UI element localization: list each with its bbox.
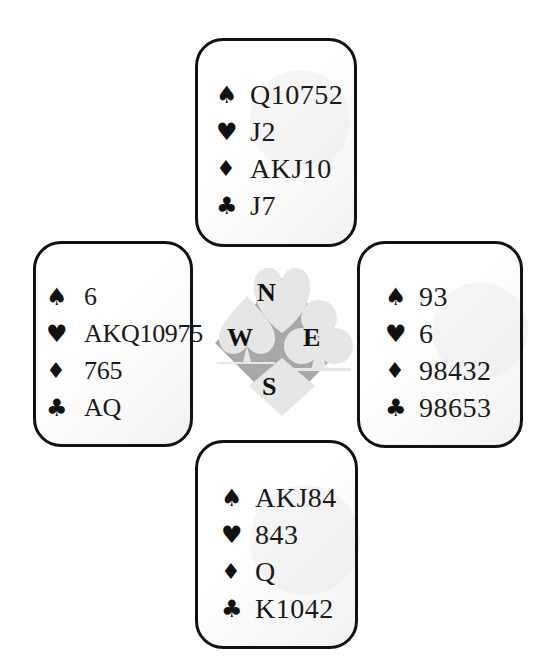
hand-south: ♠ AKJ84 ♥ 843 ♦ Q ♣ K1042 bbox=[195, 440, 358, 649]
compass-east: E bbox=[303, 323, 320, 353]
suit-row-hearts: ♥ 843 bbox=[221, 516, 337, 553]
compass-west: W bbox=[227, 323, 253, 353]
club-icon: ♣ bbox=[46, 396, 84, 420]
suit-row-clubs: ♣ 98653 bbox=[385, 389, 492, 426]
north-clubs: J7 bbox=[250, 192, 276, 220]
suit-row-clubs: ♣ K1042 bbox=[221, 590, 337, 627]
diamond-icon: ♦ bbox=[385, 360, 419, 382]
north-diamonds: AKJ10 bbox=[250, 155, 332, 183]
south-spades: AKJ84 bbox=[255, 484, 337, 512]
diamond-icon: ♦ bbox=[216, 158, 250, 180]
club-icon: ♣ bbox=[216, 194, 250, 218]
suit-row-diamonds: ♦ 98432 bbox=[385, 352, 492, 389]
west-diamonds: 765 bbox=[84, 358, 122, 384]
spade-icon: ♠ bbox=[385, 285, 419, 309]
heart-icon: ♥ bbox=[385, 322, 419, 346]
east-clubs: 98653 bbox=[419, 394, 492, 422]
suit-row-diamonds: ♦ AKJ10 bbox=[216, 150, 343, 187]
heart-icon: ♥ bbox=[221, 523, 255, 547]
suit-row-spades: ♠ AKJ84 bbox=[221, 479, 337, 516]
suit-row-diamonds: ♦ 765 bbox=[46, 352, 203, 389]
club-icon: ♣ bbox=[385, 396, 419, 420]
compass-rose: N W E S bbox=[207, 258, 357, 416]
compass-south: S bbox=[262, 372, 276, 402]
south-hearts: 843 bbox=[255, 521, 299, 549]
hand-west: ♠ 6 ♥ AKQ10975 ♦ 765 ♣ AQ bbox=[33, 241, 193, 447]
suit-row-spades: ♠ 93 bbox=[385, 278, 492, 315]
spade-icon: ♠ bbox=[221, 486, 255, 510]
spade-icon: ♠ bbox=[216, 83, 250, 107]
suit-row-diamonds: ♦ Q bbox=[221, 553, 337, 590]
heart-icon: ♥ bbox=[216, 120, 250, 144]
suit-row-clubs: ♣ J7 bbox=[216, 187, 343, 224]
compass-north: N bbox=[257, 278, 276, 308]
suit-row-hearts: ♥ 6 bbox=[385, 315, 492, 352]
hand-north: ♠ Q10752 ♥ J2 ♦ AKJ10 ♣ J7 bbox=[195, 38, 357, 247]
west-clubs: AQ bbox=[84, 395, 121, 421]
west-hearts: AKQ10975 bbox=[84, 321, 203, 347]
hand-east: ♠ 93 ♥ 6 ♦ 98432 ♣ 98653 bbox=[357, 241, 523, 448]
suit-row-hearts: ♥ J2 bbox=[216, 113, 343, 150]
suit-row-spades: ♠ 6 bbox=[46, 278, 203, 315]
north-hearts: J2 bbox=[250, 118, 276, 146]
spade-icon: ♠ bbox=[46, 285, 84, 309]
suit-row-spades: ♠ Q10752 bbox=[216, 76, 343, 113]
suit-row-clubs: ♣ AQ bbox=[46, 389, 203, 426]
diamond-icon: ♦ bbox=[221, 561, 255, 583]
south-clubs: K1042 bbox=[255, 595, 334, 623]
west-spades: 6 bbox=[84, 284, 97, 310]
heart-icon: ♥ bbox=[46, 322, 84, 346]
club-icon: ♣ bbox=[221, 597, 255, 621]
east-hearts: 6 bbox=[419, 320, 434, 348]
east-diamonds: 98432 bbox=[419, 357, 492, 385]
east-spades: 93 bbox=[419, 283, 448, 311]
south-diamonds: Q bbox=[255, 558, 276, 586]
north-spades: Q10752 bbox=[250, 81, 343, 109]
suit-row-hearts: ♥ AKQ10975 bbox=[46, 315, 203, 352]
diamond-icon: ♦ bbox=[46, 360, 84, 382]
